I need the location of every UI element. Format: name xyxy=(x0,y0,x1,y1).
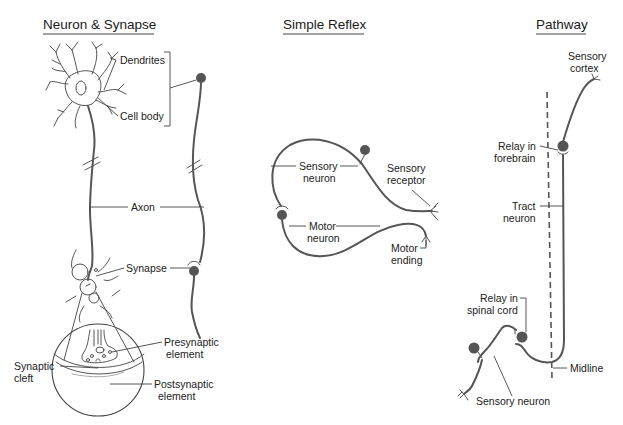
label-synaptic-cleft-2: cleft xyxy=(14,372,33,384)
label-pathway-sensory-neuron: Sensory neuron xyxy=(476,395,550,407)
panel-simple-reflex: Simple Reflex Sensory neuron Sensory rec… xyxy=(271,17,438,266)
panel-title-neuron-synapse: Neuron & Synapse xyxy=(43,17,156,32)
label-relay-forebrain-2: forebrain xyxy=(494,152,536,164)
label-tract-neuron-1: Tract xyxy=(512,200,536,212)
label-midline: Midline xyxy=(570,362,603,374)
label-synapse: Synapse xyxy=(126,262,167,274)
soma-icon xyxy=(189,266,199,276)
neuron-diagram: Neuron & Synapse xyxy=(0,0,623,425)
label-postsynaptic-2: element xyxy=(158,390,195,402)
soma-icon xyxy=(558,141,569,152)
label-motor-ending-1: Motor xyxy=(391,242,418,254)
label-sensory-neuron-1: Sensory xyxy=(299,160,338,172)
label-motor-neuron-1: Motor xyxy=(309,220,336,232)
pathway-sensory-neuron xyxy=(478,326,516,362)
label-presynaptic-1: Presynaptic xyxy=(164,336,219,348)
label-motor-ending-2: ending xyxy=(391,254,423,266)
axon-left xyxy=(88,106,95,280)
label-relay-spinal-2: spinal cord xyxy=(467,304,518,316)
panel-pathway: Pathway Sensory cortex Relay in forebrai… xyxy=(458,17,607,407)
label-relay-spinal-1: Relay in xyxy=(480,292,518,304)
panel-title-simple-reflex: Simple Reflex xyxy=(283,17,367,32)
postsynaptic-neuron xyxy=(64,250,134,362)
tract-neuron xyxy=(516,155,564,362)
axon-right xyxy=(193,82,204,262)
synapse-magnified xyxy=(52,324,144,416)
label-relay-forebrain-1: Relay in xyxy=(498,140,536,152)
label-axon: Axon xyxy=(131,201,155,213)
label-sensory-neuron-2: neuron xyxy=(303,172,336,184)
midline-dashed xyxy=(547,92,552,380)
soma-icon xyxy=(517,332,528,343)
soma-icon xyxy=(277,210,287,220)
label-sensory-receptor-2: receptor xyxy=(387,174,426,186)
neuron-cell-body xyxy=(46,42,126,128)
label-cell-body: Cell body xyxy=(120,110,165,122)
label-motor-neuron-2: neuron xyxy=(307,232,340,244)
label-dendrites: Dendrites xyxy=(120,54,165,66)
label-sensory-cortex-2: cortex xyxy=(570,62,599,74)
label-presynaptic-2: element xyxy=(166,348,203,360)
panel-neuron-synapse: Neuron & Synapse xyxy=(14,17,219,416)
label-synaptic-cleft-1: Synaptic xyxy=(14,360,54,372)
label-sensory-receptor-1: Sensory xyxy=(387,162,426,174)
label-sensory-cortex-1: Sensory xyxy=(568,50,607,62)
cortex-neuron xyxy=(563,79,594,142)
panel-title-pathway: Pathway xyxy=(536,17,588,32)
label-postsynaptic-1: Postsynaptic xyxy=(154,378,214,390)
label-tract-neuron-2: neuron xyxy=(503,212,536,224)
